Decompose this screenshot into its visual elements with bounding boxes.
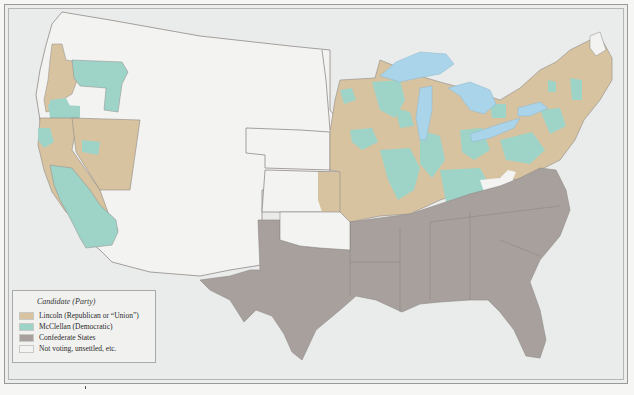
legend-item-not-voting: Not voting, unsettled, etc. — [19, 343, 149, 354]
page-tick-mark — [85, 386, 86, 389]
mcclellan-swatch — [19, 323, 34, 331]
legend-label: Not voting, unsettled, etc. — [39, 344, 117, 353]
not-voting-swatch — [19, 345, 34, 353]
legend-label: McClellan (Democratic) — [39, 322, 113, 331]
lincoln-swatch — [19, 312, 34, 320]
lake-superior — [380, 52, 454, 82]
confederate-swatch — [19, 334, 34, 342]
legend-title: Candidate (Party) — [37, 297, 149, 306]
legend-item-confederate: Confederate States — [19, 332, 149, 343]
oregon-south-mcclellan — [48, 104, 80, 118]
kansas-lincoln — [318, 172, 340, 212]
legend-label: Lincoln (Republican or “Union”) — [39, 311, 139, 320]
legend: Candidate (Party) Lincoln (Republican or… — [12, 290, 156, 363]
legend-label: Confederate States — [39, 333, 95, 342]
legend-item-lincoln: Lincoln (Republican or “Union”) — [19, 310, 149, 321]
legend-item-mcclellan: McClellan (Democratic) — [19, 321, 149, 332]
